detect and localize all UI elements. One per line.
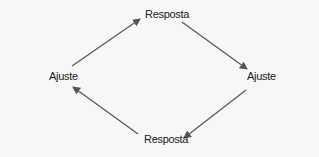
node-ajuste-right: Ajuste <box>247 70 276 82</box>
arrow-right-to-bottom <box>184 90 246 138</box>
arrow-left-to-top <box>72 19 140 66</box>
arrow-top-to-right <box>182 22 247 69</box>
arrow-bottom-to-left <box>73 87 138 134</box>
node-resposta-bottom: Resposta <box>144 133 188 145</box>
node-resposta-top: Resposta <box>145 8 189 20</box>
cycle-diagram: Resposta Ajuste Resposta Ajuste <box>0 0 319 157</box>
node-ajuste-left: Ajuste <box>49 70 78 82</box>
